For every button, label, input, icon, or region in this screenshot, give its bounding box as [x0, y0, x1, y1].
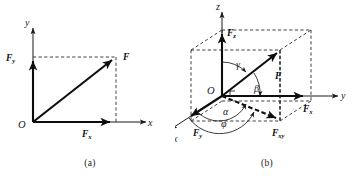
axis-x-label-a: x [147, 117, 153, 128]
figure-root: y x O Fy Fx F (a) [0, 0, 359, 190]
vector-label-fy-b-sub: x [308, 108, 313, 115]
vector-label-fx-b-sub: y [198, 132, 202, 139]
diagram-b-canvas: z y x O Fz Fx Fy Fxy F γ β α φ [175, 0, 359, 160]
axis-y-label-a: y [24, 17, 30, 28]
vector-label-fxy-b: Fxy [271, 128, 285, 139]
angle-label-beta-b: β [253, 83, 259, 94]
vector-label-fx-b: Fy [192, 128, 202, 139]
vector-label-f-a: F [122, 52, 130, 62]
origin-label-a: O [18, 119, 26, 130]
vector-label-fx-a: Fx [81, 129, 92, 140]
vector-f-a [33, 60, 112, 122]
angle-label-gamma-b: γ [236, 59, 241, 70]
vector-label-fz-b-sub: z [232, 32, 236, 39]
axis-x-label-b: x [175, 133, 178, 144]
vector-label-fx-a-sub: x [87, 133, 92, 140]
panel-b-caption: (b) [175, 158, 359, 168]
axis-z-label-b: z [215, 1, 220, 12]
diagram-a-canvas: y x O Fy Fx F [0, 0, 180, 160]
vector-fxy-b [222, 96, 276, 118]
angle-label-phi-b: φ [221, 118, 227, 129]
angle-label-alpha-b: α [223, 106, 229, 117]
angle-arc-gamma-b [222, 62, 246, 72]
vector-f-b [222, 53, 277, 96]
figure-panel-b: z y x O Fz Fx Fy Fxy F γ β α φ (b) [175, 0, 359, 190]
vector-label-fy-a-sub: y [11, 57, 15, 64]
origin-label-b: O [207, 85, 215, 96]
axis-y-label-b: y [340, 90, 346, 101]
panel-a-caption: (a) [0, 158, 180, 168]
vector-label-fxy-b-sub: xy [277, 132, 284, 139]
figure-panel-a: y x O Fy Fx F (a) [0, 0, 180, 190]
vector-label-f-b: F [274, 71, 282, 81]
vector-fx-b [191, 96, 222, 116]
vector-label-fy-a: Fy [5, 53, 15, 64]
vector-label-fy-b: Fx [302, 104, 313, 115]
